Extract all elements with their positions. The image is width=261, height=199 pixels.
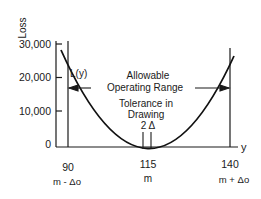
curve-label: L(y)	[70, 68, 87, 79]
tolerance-value: 2 Δ	[141, 120, 156, 131]
range-label-line1: Allowable	[127, 70, 170, 81]
x-sublabel-center: m	[144, 173, 152, 184]
x-axis-label: y	[241, 141, 247, 153]
x-sublabel-lower: m - Δo	[53, 176, 81, 187]
tolerance-label-line2: Drawing	[128, 109, 165, 120]
y-ticks	[56, 44, 62, 111]
x-tick-label-140: 140	[221, 158, 239, 170]
x-sublabel-upper: m + Δo	[219, 174, 249, 185]
range-label-line2: Operating Range	[107, 82, 184, 93]
y-tick-label-30000: 30,000	[19, 38, 51, 50]
quality-loss-chart: Loss 30,000 20,000 10,000 0 y L(y) Allow…	[0, 0, 261, 199]
y-tick-label-0: 0	[45, 138, 51, 150]
x-tick-label-90: 90	[62, 161, 74, 173]
x-tick-label-115: 115	[140, 158, 157, 170]
y-tick-label-10000: 10,000	[19, 105, 51, 117]
y-tick-label-20000: 20,000	[19, 71, 51, 83]
tolerance-label-line1: Tolerance in	[119, 98, 173, 109]
y-axis-label: Loss	[17, 17, 28, 38]
